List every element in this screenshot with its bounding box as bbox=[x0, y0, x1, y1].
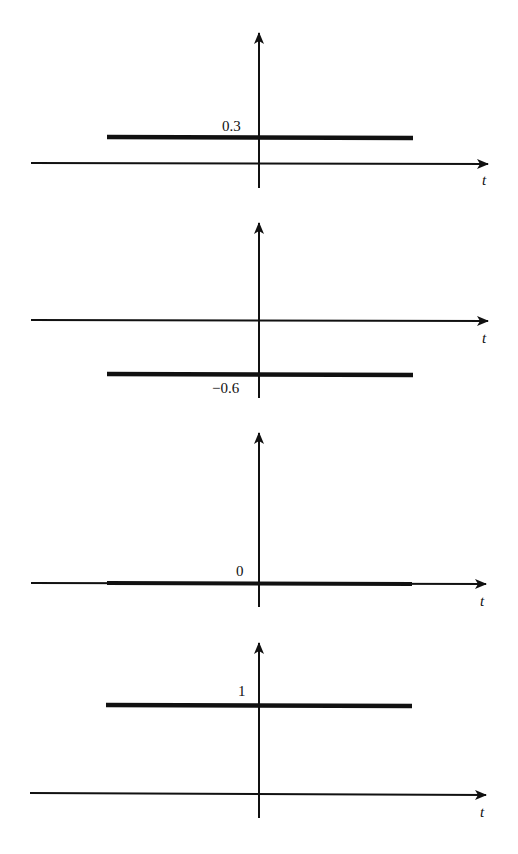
value-label: 0.3 bbox=[222, 118, 241, 134]
panel-2: −0.6 t bbox=[31, 223, 488, 398]
constant-signals-figure: 0.3 t −0.6 t 0 t 1 t bbox=[0, 0, 518, 854]
value-label: −0.6 bbox=[212, 380, 240, 396]
panel-1: 0.3 t bbox=[31, 33, 488, 188]
panel-4: 1 t bbox=[30, 643, 486, 820]
signal-line bbox=[107, 583, 412, 584]
signal-line bbox=[107, 137, 413, 138]
t-axis-label: t bbox=[482, 172, 487, 188]
signal-line bbox=[107, 374, 413, 375]
t-axis-label: t bbox=[480, 804, 485, 820]
t-axis-label: t bbox=[482, 330, 487, 346]
t-axis-label: t bbox=[480, 593, 485, 609]
value-label: 0 bbox=[236, 563, 244, 579]
panel-3: 0 t bbox=[31, 433, 486, 609]
value-label: 1 bbox=[238, 683, 246, 699]
signal-line bbox=[106, 705, 412, 706]
